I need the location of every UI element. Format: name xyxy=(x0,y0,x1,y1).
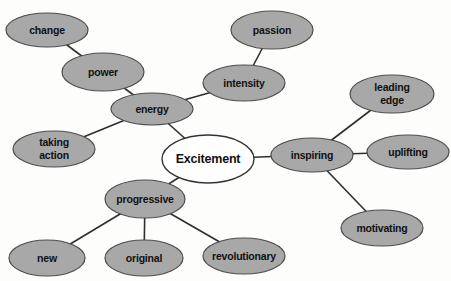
node-leading-edge: leadingedge xyxy=(350,75,434,113)
node-excitement: Excitement xyxy=(162,135,254,183)
node-passion: passion xyxy=(231,11,313,49)
node-label-excitement: Excitement xyxy=(176,152,242,166)
node-label-revolutionary: revolutionary xyxy=(212,250,276,262)
node-label-power: power xyxy=(88,66,118,78)
node-change: change xyxy=(6,13,88,47)
node-uplifting: uplifting xyxy=(367,135,449,169)
node-label-change: change xyxy=(29,24,65,36)
node-intensity: intensity xyxy=(203,65,285,101)
node-label-motivating: motivating xyxy=(356,222,407,234)
node-revolutionary: revolutionary xyxy=(203,238,285,274)
node-power: power xyxy=(62,53,144,91)
node-label-new: new xyxy=(37,252,58,264)
node-new: new xyxy=(9,240,85,276)
node-label-intensity: intensity xyxy=(223,77,265,89)
node-label-progressive: progressive xyxy=(116,193,174,205)
node-label-inspiring: inspiring xyxy=(291,149,334,161)
node-label-uplifting: uplifting xyxy=(388,146,428,158)
node-taking-action: takingaction xyxy=(13,131,95,167)
node-label-energy: energy xyxy=(135,103,169,115)
mindmap-canvas: Excitementchangepowerenergypassionintens… xyxy=(0,0,451,281)
node-motivating: motivating xyxy=(341,210,423,246)
node-original: original xyxy=(105,240,183,276)
node-label-original: original xyxy=(126,252,163,264)
node-energy: energy xyxy=(111,93,193,125)
node-progressive: progressive xyxy=(105,180,185,218)
node-label-passion: passion xyxy=(253,24,291,36)
mindmap-diagram: Excitementchangepowerenergypassionintens… xyxy=(0,0,451,281)
node-inspiring: inspiring xyxy=(271,138,353,172)
node-label-taking-action: takingaction xyxy=(39,136,69,161)
